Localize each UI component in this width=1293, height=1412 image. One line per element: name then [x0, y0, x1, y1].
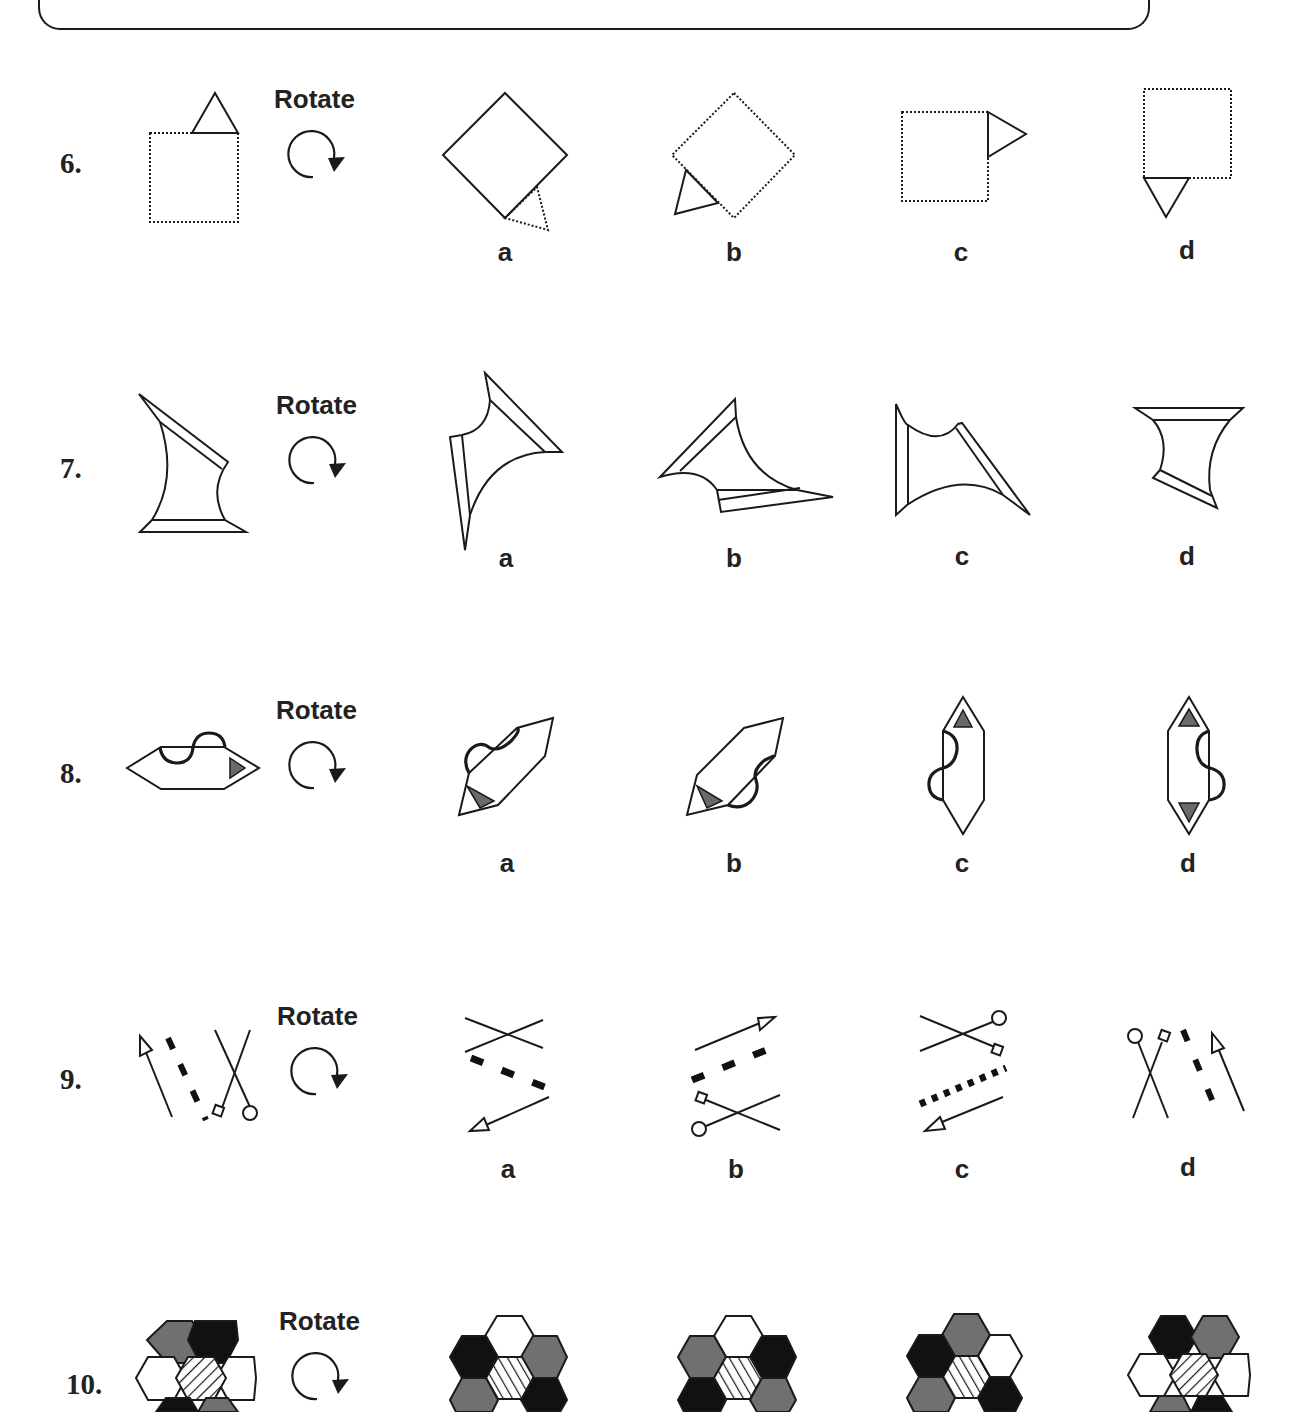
- rotate-label: Rotate: [277, 1001, 358, 1032]
- rotate-label: Rotate: [274, 84, 355, 115]
- option-label-b[interactable]: b: [714, 848, 754, 879]
- rotate-label: Rotate: [276, 390, 357, 421]
- option-label-b[interactable]: b: [716, 1154, 756, 1185]
- option-label-c[interactable]: c: [942, 848, 982, 879]
- option-10d-figure[interactable]: [0, 0, 1, 1]
- option-label-d[interactable]: d: [1168, 1152, 1208, 1183]
- option-label-b[interactable]: b: [714, 237, 754, 268]
- option-label-d[interactable]: d: [1167, 541, 1207, 572]
- question-number: 10.: [66, 1368, 102, 1401]
- rotate-label: Rotate: [279, 1306, 360, 1337]
- question-number: 6.: [60, 147, 82, 180]
- option-label-c[interactable]: c: [942, 1154, 982, 1185]
- question-number: 8.: [60, 757, 82, 790]
- option-label-a[interactable]: a: [487, 848, 527, 879]
- option-label-b[interactable]: b: [714, 543, 754, 574]
- option-label-a[interactable]: a: [486, 543, 526, 574]
- option-label-c[interactable]: c: [941, 237, 981, 268]
- question-number: 9.: [60, 1063, 82, 1096]
- option-label-c[interactable]: c: [942, 541, 982, 572]
- option-label-a[interactable]: a: [488, 1154, 528, 1185]
- previous-section-box: [38, 0, 1150, 30]
- rotate-label: Rotate: [276, 695, 357, 726]
- option-label-d[interactable]: d: [1167, 235, 1207, 266]
- question-number: 7.: [60, 452, 82, 485]
- option-label-d[interactable]: d: [1168, 848, 1208, 879]
- option-label-a[interactable]: a: [485, 237, 525, 268]
